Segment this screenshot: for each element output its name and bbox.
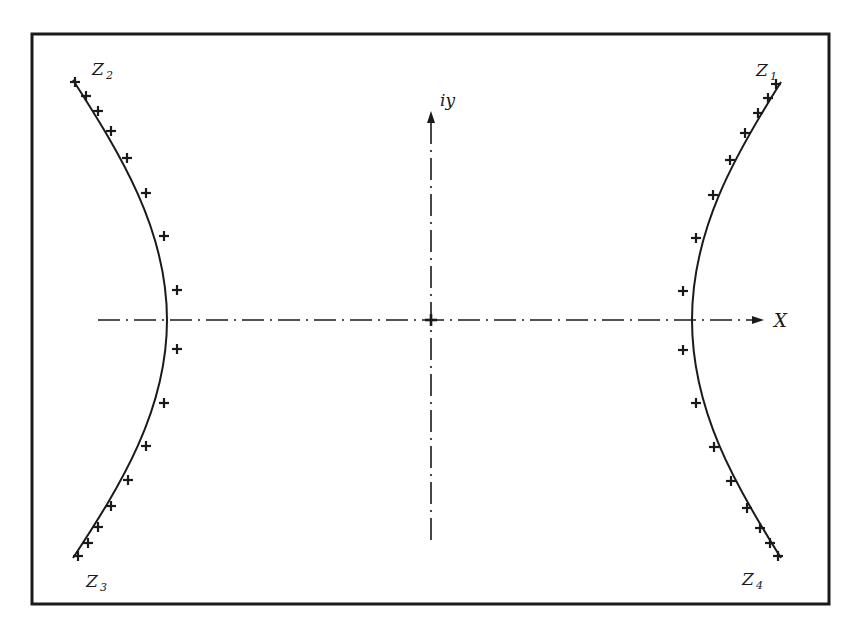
plus-marker-icon <box>755 523 765 533</box>
svg-text:Z: Z <box>741 569 755 589</box>
plus-marker-icon <box>73 551 83 561</box>
x-axis-label: X <box>772 310 788 331</box>
svg-text:Z: Z <box>91 59 105 79</box>
svg-text:2: 2 <box>105 69 113 82</box>
label-z1: Z 1 <box>755 60 777 83</box>
plus-marker-icon <box>172 344 182 354</box>
left-branch-curve <box>73 80 167 558</box>
right-branch-curve <box>692 82 781 558</box>
origin-marker <box>425 314 437 326</box>
plus-marker-icon <box>691 233 701 243</box>
y-axis-arrow-icon <box>427 111 435 123</box>
y-axis-label: iy <box>440 90 455 110</box>
plus-marker-icon <box>678 286 688 296</box>
plus-marker-icon <box>141 441 151 451</box>
plus-marker-icon <box>123 475 133 485</box>
svg-text:Z: Z <box>755 60 769 80</box>
plus-marker-icon <box>742 503 752 513</box>
plus-marker-icon <box>678 345 688 355</box>
label-z2: Z 2 <box>91 59 113 82</box>
svg-text:1: 1 <box>770 70 777 83</box>
x-axis-arrow-icon <box>752 316 764 324</box>
plus-marker-icon <box>159 231 169 241</box>
plus-marker-icon <box>753 108 763 118</box>
svg-text:3: 3 <box>100 581 107 594</box>
plus-marker-icon <box>708 190 718 200</box>
plus-marker-icon <box>122 153 132 163</box>
plus-marker-icon <box>141 188 151 198</box>
plus-marker-icon <box>691 398 701 408</box>
plus-marker-icon <box>159 398 169 408</box>
plus-marker-icon <box>763 93 773 103</box>
plus-marker-icon <box>70 77 80 87</box>
plus-marker-icon <box>172 285 182 295</box>
svg-text:4: 4 <box>755 579 763 592</box>
hyperbola-diagram: X iy Z 1 Z 2 Z 3 Z 4 <box>0 0 859 629</box>
plus-marker-icon <box>773 551 783 561</box>
label-z4: Z 4 <box>741 569 763 592</box>
label-z3: Z 3 <box>85 571 107 594</box>
svg-text:Z: Z <box>85 571 99 591</box>
plus-marker-icon <box>81 91 91 101</box>
